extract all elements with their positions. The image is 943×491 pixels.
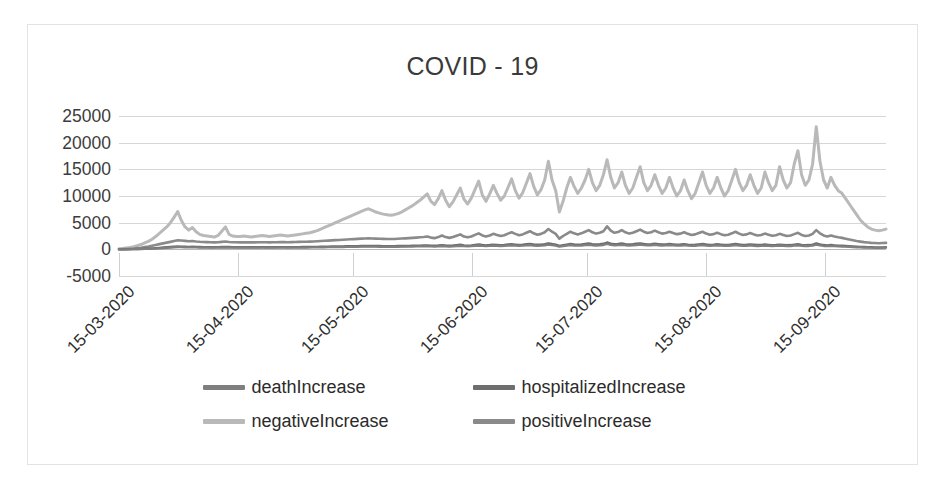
x-tick-label: 15-07-2020 [531, 282, 607, 358]
y-tick-label: -5000 [66, 266, 111, 287]
x-tick-label: 15-03-2020 [64, 282, 140, 358]
legend-swatch-icon [203, 385, 245, 390]
y-tick-label: 5000 [72, 212, 111, 233]
y-tick-label: 10000 [62, 186, 111, 207]
legend-row: deathIncreasehospitalizedIncrease [28, 377, 917, 398]
x-tick-label: 15-08-2020 [650, 282, 726, 358]
x-tick-label: 15-09-2020 [769, 282, 845, 358]
x-tick-label: 15-06-2020 [416, 282, 492, 358]
legend-row: negativeIncreasepositiveIncrease [28, 411, 917, 432]
legend-item-hospitalizedIncrease[interactable]: hospitalizedIncrease [473, 377, 743, 398]
chart-legend: deathIncreasehospitalizedIncreasenegativ… [28, 377, 917, 445]
legend-swatch-icon [473, 385, 515, 390]
legend-label: hospitalizedIncrease [522, 377, 686, 398]
chart-frame: COVID - 19 2500020000150001000050000-500… [27, 24, 918, 465]
legend-swatch-icon [473, 419, 515, 424]
legend-item-negativeIncrease[interactable]: negativeIncrease [203, 411, 473, 432]
legend-item-deathIncrease[interactable]: deathIncrease [203, 377, 473, 398]
plot-area: 2500020000150001000050000-5000 15-03-202… [119, 116, 886, 276]
series-lines [119, 116, 886, 276]
legend-swatch-icon [203, 419, 245, 424]
y-tick-label: 0 [101, 239, 111, 260]
y-tick-label: 15000 [62, 159, 111, 180]
legend-item-positiveIncrease[interactable]: positiveIncrease [473, 411, 743, 432]
y-tick-label: 20000 [62, 132, 111, 153]
chart-title: COVID - 19 [28, 52, 917, 81]
legend-label: negativeIncrease [252, 411, 389, 432]
gridline--5000 [119, 276, 886, 277]
y-tick-label: 25000 [62, 106, 111, 127]
x-tick-label: 15-05-2020 [297, 282, 373, 358]
series-line-negativeIncrease [119, 127, 886, 249]
legend-label: deathIncrease [252, 377, 366, 398]
legend-label: positiveIncrease [522, 411, 652, 432]
x-tick-label: 15-04-2020 [182, 282, 258, 358]
